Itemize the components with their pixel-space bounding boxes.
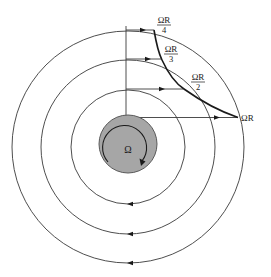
arrow-left-icon xyxy=(127,202,133,206)
label-numerator: ΩR xyxy=(158,15,171,25)
label-denominator: 4 xyxy=(162,25,167,35)
label-numerator: ΩR xyxy=(192,72,205,82)
diagram-canvas: Ω ΩR 4 ΩR 3 ΩR 2 ΩR xyxy=(0,0,271,277)
label-denominator: 3 xyxy=(169,54,173,64)
label-omega-r-over-3: ΩR 3 xyxy=(164,44,178,64)
velocity-vectors xyxy=(126,30,238,118)
ring-direction-arrows xyxy=(127,202,133,265)
label-omega-r-over-4: ΩR 4 xyxy=(157,15,171,35)
label-denominator: 2 xyxy=(196,82,200,92)
disk-omega-label: Ω xyxy=(124,144,131,155)
arrow-left-icon xyxy=(127,232,133,236)
arrow-right-icon xyxy=(145,57,151,61)
label-omega-r: ΩR xyxy=(241,113,254,123)
label-numerator: ΩR xyxy=(165,44,178,54)
rotating-disk: Ω xyxy=(99,115,157,173)
vector-arrowheads xyxy=(140,28,220,120)
arrow-right-icon xyxy=(214,115,220,119)
arrow-left-icon xyxy=(127,261,133,265)
arrow-right-icon xyxy=(159,87,165,91)
